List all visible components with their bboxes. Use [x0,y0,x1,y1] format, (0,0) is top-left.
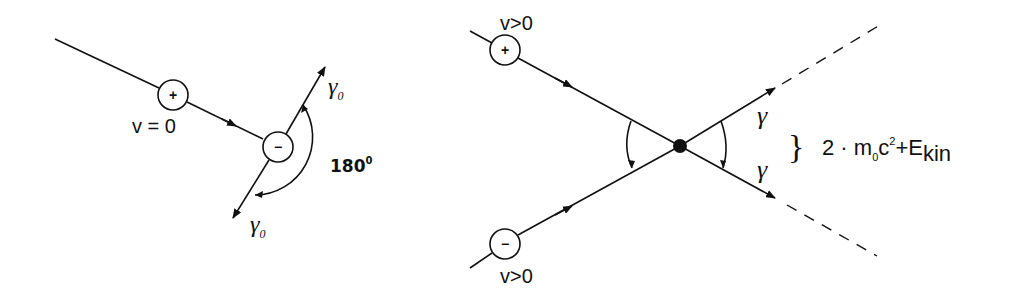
positron-circle: + [158,80,188,110]
arc-arrow-icon [720,160,726,168]
electron-circle: − [490,229,520,259]
photon-lower-arrow [233,160,269,218]
positron-velocity-label: v = 0 [132,115,176,137]
photon-upper-label: γ0 [328,73,343,103]
arc-arrow-icon [628,160,635,168]
right-panel: + v>0 − v>0 γ γ } 2 · m0c2+Ekin [470,12,951,287]
arc-arrow-icon [255,191,263,198]
photon-lower-label: γ0 [250,211,265,241]
annihilation-diagram: + v = 0 − γ0 γ0 1800 + v>0 − [0,0,1031,296]
electron-velocity-label: v>0 [500,265,533,287]
photon-upper-label: γ [757,101,768,130]
electron-circle: − [263,132,293,162]
angle-label: 1800 [330,155,373,176]
direction-arrow-icon [222,119,236,126]
positron-sign: + [169,87,177,103]
direction-arrow-icon [555,206,572,215]
direction-arrow-icon [555,78,572,87]
electron-sign: − [501,236,509,252]
electron-sign: − [274,139,282,155]
positron-sign: + [501,42,509,58]
photon-lower-dashed [787,205,877,256]
electron-track [518,146,680,235]
brace: } [788,128,804,165]
energy-formula: 2 · m0c2+Ekin [822,135,951,166]
photon-lower-label: γ [757,155,768,184]
positron-track [518,58,680,146]
positron-circle: + [490,35,520,65]
photon-upper-arrow [286,67,325,134]
positron-track-tail [470,31,492,43]
photon-upper-dashed [782,25,880,84]
electron-track-tail [470,253,492,268]
positron-track-in [55,39,159,88]
left-panel: + v = 0 − γ0 γ0 1800 [55,39,373,241]
positron-velocity-label: v>0 [500,12,533,34]
